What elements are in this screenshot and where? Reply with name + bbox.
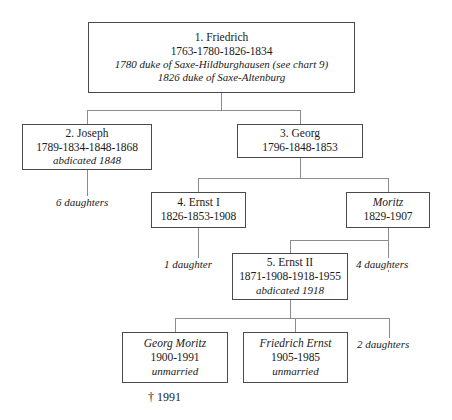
connector-to-joseph: [87, 110, 88, 124]
connector-to-friedrich-ernst: [295, 318, 296, 332]
node-friedrich-note2: 1826 duke of Saxe-Altenburg: [158, 71, 286, 84]
node-friedrich-ernst[interactable]: Friedrich Ernst 1905-1985 unmarried: [243, 332, 348, 383]
node-georg-moritz-name: Georg Moritz: [144, 337, 207, 351]
node-moritz[interactable]: Moritz 1829-1907: [346, 192, 430, 228]
node-joseph-dates: 1789-1834-1848-1868: [36, 141, 138, 155]
node-georg-moritz[interactable]: Georg Moritz 1900-1991 unmarried: [122, 332, 228, 383]
node-friedrich-dates: 1763-1780-1826-1834: [171, 45, 273, 59]
node-ernst-ii[interactable]: 5. Ernst II 1871-1908-1918-1955 abdicate…: [232, 253, 348, 300]
genealogy-chart: 1. Friedrich 1763-1780-1826-1834 1780 du…: [0, 0, 452, 420]
node-moritz-name: Moritz: [373, 196, 404, 210]
connector-moritz-stem: [388, 228, 389, 240]
connector-to-georg-moritz: [175, 318, 176, 332]
node-ernst-ii-dates: 1871-1908-1918-1955: [239, 270, 341, 284]
node-friedrich-name: 1. Friedrich: [195, 31, 249, 45]
connector-to-ernst-i: [198, 178, 199, 192]
connector-ernst-ii-bus: [175, 318, 390, 319]
node-ernst-i[interactable]: 4. Ernst I 1826-1853-1908: [151, 192, 246, 228]
connector-georg-stem: [300, 158, 301, 178]
label-ernst-ii-daughters: 2 daughters: [356, 338, 410, 350]
node-ernst-i-name: 4. Ernst I: [177, 196, 219, 210]
connector-ernst-ii-stem: [290, 300, 291, 318]
connector-to-georg: [300, 110, 301, 124]
connector-friedrich-stem: [221, 93, 222, 110]
node-ernst-ii-note1: abdicated 1918: [256, 284, 324, 297]
node-friedrich[interactable]: 1. Friedrich 1763-1780-1826-1834 1780 du…: [88, 22, 355, 93]
node-georg-moritz-note1: unmarried: [152, 365, 198, 378]
node-joseph[interactable]: 2. Joseph 1789-1834-1848-1868 abdicated …: [22, 124, 152, 170]
node-joseph-name: 2. Joseph: [66, 127, 109, 141]
connector-georg-bus: [198, 178, 389, 179]
node-friedrich-ernst-name: Friedrich Ernst: [260, 337, 332, 351]
connector-to-moritz: [388, 178, 389, 192]
node-georg-name: 3. Georg: [280, 127, 320, 141]
node-friedrich-ernst-dates: 1905-1985: [271, 351, 320, 365]
node-ernst-ii-name: 5. Ernst II: [267, 256, 313, 270]
label-line-extinct: † 1991: [148, 390, 181, 405]
connector-friedrich-bus: [87, 110, 301, 111]
connector-moritz-bus: [290, 240, 389, 241]
node-moritz-dates: 1829-1907: [364, 210, 413, 224]
connector-to-ernst-ii: [290, 240, 291, 253]
label-ernst-i-daughter: 1 daughter: [163, 258, 213, 270]
node-friedrich-note1: 1780 duke of Saxe-Hildburghausen (see ch…: [115, 58, 328, 71]
node-joseph-note1: abdicated 1848: [53, 154, 121, 167]
label-moritz-daughters: 4 daughters: [355, 258, 409, 270]
label-joseph-daughters: 6 daughters: [55, 196, 109, 208]
connector-ernst-i-daughter: [198, 228, 199, 262]
node-georg-dates: 1796-1848-1853: [262, 141, 337, 155]
node-georg[interactable]: 3. Georg 1796-1848-1853: [237, 124, 363, 158]
node-georg-moritz-dates: 1900-1991: [151, 351, 200, 365]
node-friedrich-ernst-note1: unmarried: [272, 365, 318, 378]
node-ernst-i-dates: 1826-1853-1908: [161, 210, 236, 224]
